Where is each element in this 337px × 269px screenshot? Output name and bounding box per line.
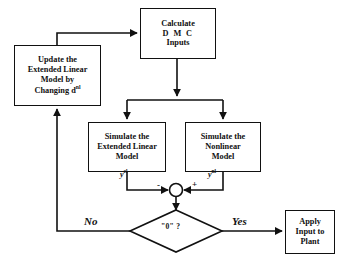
node-simulate-extended-linear-model[interactable]: Simulate the Extended Linear Model <box>88 122 166 172</box>
node-update-line-4-text: Changing d <box>35 86 76 95</box>
edge-simulate-el-to-sum <box>127 172 168 190</box>
node-update-superscript: nl <box>76 84 81 90</box>
node-calculate-line-3: Inputs <box>166 38 189 48</box>
node-simulate-nonlinear-model[interactable]: Simulate the Nonlinear Model <box>185 122 261 172</box>
node-apply-input-to-plant[interactable]: Apply Input to Plant <box>285 210 335 254</box>
edge-label-no: No <box>84 215 97 227</box>
node-calculate-dmc-inputs[interactable]: Calculate D M C Inputs <box>140 8 216 59</box>
node-calculate-line-1: Calculate <box>161 19 195 29</box>
node-apply-line-3: Plant <box>301 237 320 247</box>
decision-diamond-label: "0" ? <box>161 222 180 231</box>
summing-junction-minus-sign: - <box>157 180 160 190</box>
node-sim-el-line-3: Model <box>116 152 139 162</box>
node-sim-nl-line-1: Simulate the <box>201 132 245 142</box>
edge-update-to-calculate <box>57 33 137 45</box>
node-sim-el-line-1: Simulate the <box>105 132 149 142</box>
node-update-line-2: Extended Linear <box>28 65 88 75</box>
node-sim-nl-line-2: Nonlinear <box>205 142 241 152</box>
node-sim-el-line-2: Extended Linear <box>97 142 157 152</box>
node-update-extended-linear-model[interactable]: Update the Extended Linear Model by Chan… <box>14 45 101 106</box>
node-apply-line-1: Apply <box>299 217 321 227</box>
edge-label-y-el-superscript: el <box>124 168 128 174</box>
decision-diamond-shape <box>130 210 222 252</box>
edge-label-y-extended-linear: yel <box>120 168 128 179</box>
node-update-line-4: Changing dnl <box>35 84 81 96</box>
node-update-line-3: Model by <box>41 75 74 85</box>
edge-simulate-nl-to-sum <box>184 172 223 190</box>
flowchart-canvas: Calculate D M C Inputs Update the Extend… <box>0 0 337 269</box>
node-update-line-1: Update the <box>38 55 77 65</box>
edge-label-yes: Yes <box>232 215 247 227</box>
node-apply-line-2: Input to <box>296 227 325 237</box>
node-sim-nl-line-3: Model <box>212 152 235 162</box>
summing-junction-plus-sign: + <box>192 179 197 189</box>
node-calculate-line-2: D M C <box>163 29 194 39</box>
edge-label-y-nonlinear: ynl <box>208 168 216 179</box>
edge-label-y-nl-superscript: nl <box>212 168 217 174</box>
summing-junction-circle <box>170 184 183 197</box>
